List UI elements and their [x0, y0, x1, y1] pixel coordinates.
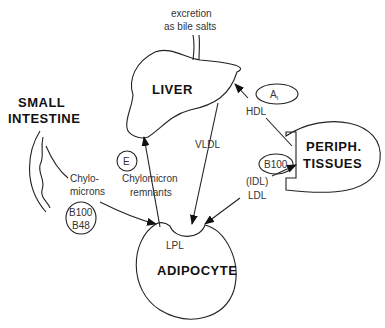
excretion-label-1: excretion	[171, 8, 212, 19]
chylomicrons-arrow	[100, 202, 156, 224]
vldl-arrow	[192, 103, 218, 224]
bile-duct-line	[193, 35, 194, 60]
b100-chylo-label: B100	[69, 207, 93, 218]
chylomicrons-label-2: microns	[70, 186, 105, 197]
excretion-label-2: as bile salts	[164, 21, 216, 32]
idl-label: (IDL)	[246, 176, 268, 187]
intestine-inner-wall	[40, 137, 50, 208]
periph-label-1: PERIPH.	[306, 139, 362, 154]
chylomicrons-label-1: Chylo-	[70, 173, 99, 184]
a1-apoprotein	[256, 84, 298, 104]
small-intestine-label-1: SMALL	[18, 95, 65, 110]
hdl-label: HDL	[246, 106, 266, 117]
ldl-arrow	[205, 198, 240, 224]
adipocyte-label: ADIPOCYTE	[157, 263, 237, 278]
small-intestine-label-2: INTESTINE	[8, 111, 80, 126]
liver-label: LIVER	[152, 82, 193, 97]
lipoprotein-diagram: LIVER SMALL INTESTINE PERIPH. TISSUES AD…	[0, 0, 385, 328]
b100-periph-label: B100	[264, 159, 288, 170]
periph-label-2: TISSUES	[303, 156, 362, 171]
intestine-outer-wall	[30, 131, 47, 212]
e-label: E	[123, 156, 130, 167]
ldl-label: LDL	[248, 190, 267, 201]
lpl-label: LPL	[166, 240, 184, 251]
remnants-label-1: Chylomicron	[122, 173, 178, 184]
vldl-label: VLDL	[195, 139, 220, 150]
b48-label: B48	[72, 220, 90, 231]
intestine-chylo-line	[46, 146, 68, 178]
a1-label: AI	[270, 89, 279, 101]
remnants-label-2: remnants	[130, 187, 172, 198]
hdl-arrow	[235, 84, 248, 98]
